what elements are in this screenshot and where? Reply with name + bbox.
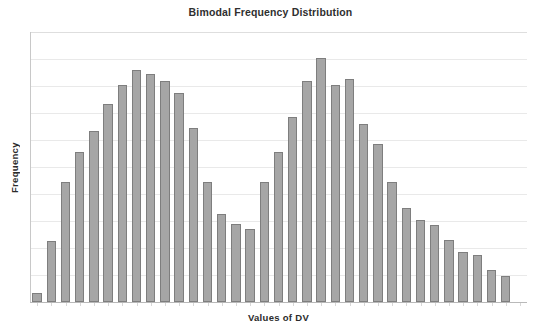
x-tick: [222, 303, 223, 306]
bar[interactable]: [231, 224, 240, 302]
bar[interactable]: [89, 131, 98, 302]
bar[interactable]: [47, 241, 56, 302]
x-tick: [520, 303, 521, 306]
x-tick: [392, 303, 393, 306]
bar[interactable]: [302, 81, 311, 302]
x-tick: [108, 303, 109, 306]
bar[interactable]: [402, 208, 411, 303]
bar[interactable]: [444, 240, 453, 302]
x-tick: [66, 303, 67, 306]
x-tick: [51, 303, 52, 306]
chart-title: Bimodal Frequency Distribution: [0, 6, 541, 18]
x-tick: [350, 303, 351, 306]
x-tick: [463, 303, 464, 306]
bar[interactable]: [359, 124, 368, 302]
bar-series: [30, 32, 527, 303]
bar[interactable]: [32, 293, 41, 302]
bar[interactable]: [373, 144, 382, 302]
plot-area: [30, 32, 527, 303]
bar[interactable]: [75, 152, 84, 302]
x-tick: [264, 303, 265, 306]
x-tick: [137, 303, 138, 306]
chart-screenshot: Bimodal Frequency Distribution Frequency…: [0, 0, 541, 335]
bar[interactable]: [274, 152, 283, 302]
x-tick: [193, 303, 194, 306]
x-tick: [151, 303, 152, 306]
x-tick: [279, 303, 280, 306]
x-tick: [492, 303, 493, 306]
x-tick: [364, 303, 365, 306]
bar[interactable]: [103, 104, 112, 302]
bar[interactable]: [501, 276, 510, 302]
bar[interactable]: [160, 81, 169, 302]
x-tick: [421, 303, 422, 306]
x-tick: [179, 303, 180, 306]
x-tick: [477, 303, 478, 306]
bar[interactable]: [345, 79, 354, 302]
bar[interactable]: [387, 182, 396, 302]
x-tick: [449, 303, 450, 306]
y-axis-title: Frequency: [8, 128, 22, 208]
x-axis-title: Values of DV: [30, 312, 527, 323]
x-tick: [378, 303, 379, 306]
x-tick: [80, 303, 81, 306]
bar[interactable]: [288, 117, 297, 302]
x-tick: [293, 303, 294, 306]
bar[interactable]: [61, 182, 70, 302]
x-tick: [435, 303, 436, 306]
x-tick: [37, 303, 38, 306]
bar[interactable]: [331, 85, 340, 302]
x-tick: [94, 303, 95, 306]
x-tick: [335, 303, 336, 306]
bar[interactable]: [203, 182, 212, 302]
x-tick: [165, 303, 166, 306]
bar[interactable]: [487, 270, 496, 302]
bar[interactable]: [245, 229, 254, 302]
bar[interactable]: [118, 85, 127, 302]
bar[interactable]: [430, 225, 439, 302]
x-tick: [307, 303, 308, 306]
bar[interactable]: [316, 58, 325, 302]
bar[interactable]: [189, 128, 198, 302]
bar[interactable]: [146, 74, 155, 302]
bar[interactable]: [416, 220, 425, 302]
x-tick: [122, 303, 123, 306]
x-tick: [236, 303, 237, 306]
bar[interactable]: [260, 182, 269, 302]
bar[interactable]: [174, 93, 183, 302]
x-tick: [406, 303, 407, 306]
bar[interactable]: [217, 214, 226, 302]
bar[interactable]: [458, 252, 467, 302]
x-tick: [208, 303, 209, 306]
bar[interactable]: [473, 255, 482, 302]
x-tick: [506, 303, 507, 306]
bar[interactable]: [132, 70, 141, 302]
x-tick: [321, 303, 322, 306]
x-tick: [250, 303, 251, 306]
